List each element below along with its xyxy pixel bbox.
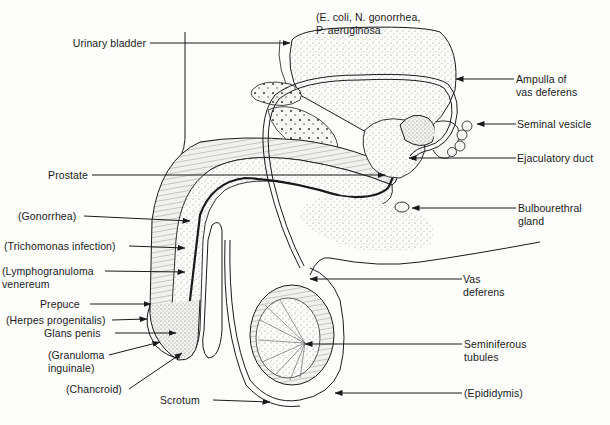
label-text: inguinale) [48,362,104,375]
label-text: (Epididymis) [464,387,523,399]
label-text: tubules [464,351,526,364]
label-text: (Lymphogranuloma [2,265,94,278]
label-text: (Gonorrhea) [18,210,76,222]
label-text: Prepuce [40,298,80,310]
label-ejaculatory-duct: Ejaculatory duct [517,152,593,165]
label-text: Vas [463,273,505,286]
label-gonorrhea: (Gonorrhea) [18,210,76,223]
label-text: (Chancroid) [66,383,122,395]
label-prepuce: Prepuce [40,298,80,311]
label-text: Urinary bladder [73,37,146,49]
label-text: Seminiferous [464,338,526,351]
label-vas-deferens: Vas deferens [463,273,505,299]
label-text: vas deferens [516,86,577,99]
label-herpes: (Herpes progenitalis) [6,314,106,327]
label-trichomonas: (Trichomonas infection) [4,240,116,253]
label-lymphogranuloma: (Lymphogranuloma venereum [2,265,94,291]
label-text: (Herpes progenitalis) [6,314,106,326]
label-bulbourethral: Bulbourethral gland [518,202,582,228]
label-text: deferens [463,286,505,299]
label-seminal-vesicle: Seminal vesicle [517,118,591,131]
label-text: (E. coli, N. gonorrhea, [316,11,420,24]
label-text: (Trichomonas infection) [4,240,116,252]
label-urinary-bladder: Urinary bladder [20,37,146,50]
label-prostate: Prostate [20,169,88,182]
label-seminiferous-tubules: Seminiferous tubules [464,338,526,364]
label-epididymis: (Epididymis) [464,387,523,400]
label-text: Scrotum [160,394,200,406]
label-text: Seminal vesicle [517,118,591,130]
label-text: Glans penis [44,327,101,339]
label-text: Ejaculatory duct [517,152,593,164]
label-scrotum: Scrotum [160,394,200,407]
label-text: venereum [2,278,94,291]
anatomy-diagram: Urinary bladder Prostate (Gonorrhea) (Tr… [0,0,610,425]
label-text: P. aeruginosa [316,24,420,37]
label-text: Prostate [48,169,88,181]
label-text: (Granuloma [48,349,104,362]
label-text: Ampulla of [516,73,577,86]
label-text: gland [518,215,582,228]
label-glans-penis: Glans penis [44,327,101,340]
label-chancroid: (Chancroid) [66,383,122,396]
label-bladder-pathogens: (E. coli, N. gonorrhea, P. aeruginosa [316,11,420,37]
label-text: Bulbourethral [518,202,582,215]
label-ampulla: Ampulla of vas deferens [516,73,577,99]
label-granuloma: (Granuloma inguinale) [48,349,104,375]
